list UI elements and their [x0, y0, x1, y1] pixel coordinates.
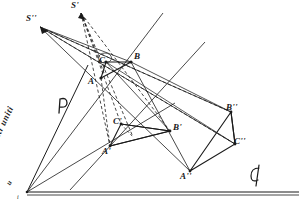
triangle-abc-outline: [101, 62, 131, 78]
center-point-markers: [26, 13, 86, 193]
label-s-prime: S': [71, 1, 79, 10]
vertex-b-prime-dot: [169, 130, 172, 133]
label-vertex-b: B: [134, 52, 140, 61]
label-vertex-a: A: [88, 77, 94, 86]
base-line-group: [27, 192, 299, 195]
label-vertex-c-double-prime: C'': [234, 137, 246, 146]
ray-from-vertex-mid: [27, 103, 175, 192]
dashed-ray-sp-1: [81, 13, 110, 146]
base-vertex-dot: [26, 191, 29, 194]
label-vertex-c: C: [99, 56, 105, 65]
diagonal-line-1: [27, 13, 163, 192]
cevian-c-prime-b-prime: [121, 124, 170, 131]
dashed-ray-sp-4: [81, 13, 170, 131]
label-vertex-a-prime: A': [102, 147, 111, 156]
label-s-double-prime: S'': [26, 14, 37, 23]
line-b-to-b-double: [131, 62, 231, 112]
line-b-to-a-double: [131, 62, 190, 171]
s-double-prime-arrow: [40, 27, 48, 34]
vertex-b-dot: [129, 60, 132, 63]
diagonal-line-2: [70, 42, 205, 190]
label-vertex-a-double-prime: A'': [180, 172, 192, 181]
vertex-a-dot: [99, 76, 102, 79]
d-script-glyph: [251, 165, 259, 186]
label-vertex-c-prime: C': [113, 117, 122, 126]
diagram-canvas: u retta di punti uniti S' S'' A B C A' B…: [0, 0, 301, 213]
line-u-retta-punti-uniti: [27, 65, 88, 192]
label-vertex-b-double-prime: B'': [226, 103, 238, 112]
label-vertex-b-prime: B': [173, 123, 182, 132]
label-base-point-i: i: [17, 194, 19, 200]
geometry-figure: [0, 0, 301, 213]
median-a-prime: [110, 131, 170, 146]
triangle-a-double-prime-shape: [189, 111, 237, 173]
direction-marker-glyph: [251, 165, 259, 186]
